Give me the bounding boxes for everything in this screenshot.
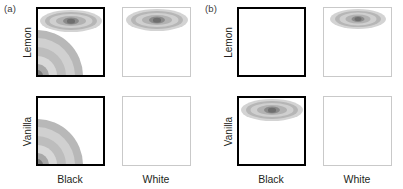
plot-cell-a-lemon-black[interactable]: [36, 7, 105, 77]
subfigure-b: (b) Lemon Vanilla Black White: [201, 0, 402, 189]
row-label-lemon-b: Lemon: [222, 7, 235, 79]
plot-cell-b-lemon-white[interactable]: [323, 7, 392, 77]
plot-cell-a-vanilla-black[interactable]: [36, 96, 105, 166]
density-blob-corner-icon: [37, 119, 83, 165]
plot-cell-b-vanilla-white[interactable]: [323, 96, 392, 166]
plot-cell-b-vanilla-black[interactable]: [237, 96, 306, 166]
density-blob-corner-icon: [37, 30, 83, 76]
row-label-vanilla-b: Vanilla: [222, 96, 235, 168]
density-blob-top-icon: [241, 97, 303, 123]
row-label-lemon-a: Lemon: [21, 7, 34, 79]
density-blob-top-icon: [126, 7, 188, 33]
subfigure-a: (a) Lemon Vanilla: [0, 0, 201, 189]
col-caption-black-a: Black: [30, 174, 110, 185]
col-caption-black-b: Black: [231, 174, 311, 185]
density-blob-top-icon: [40, 8, 102, 34]
plot-cell-a-lemon-white[interactable]: [122, 7, 191, 77]
density-blob-top-icon: [330, 7, 386, 31]
col-caption-white-a: White: [116, 174, 196, 185]
row-label-vanilla-a: Vanilla: [21, 96, 34, 168]
plot-cell-b-lemon-black[interactable]: [237, 7, 306, 77]
plot-cell-a-vanilla-white[interactable]: [122, 96, 191, 166]
figure-root: (a) Lemon Vanilla: [0, 0, 403, 189]
col-caption-white-b: White: [317, 174, 397, 185]
subfigure-tag-b: (b): [205, 4, 217, 14]
subfigure-tag-a: (a): [4, 4, 16, 14]
